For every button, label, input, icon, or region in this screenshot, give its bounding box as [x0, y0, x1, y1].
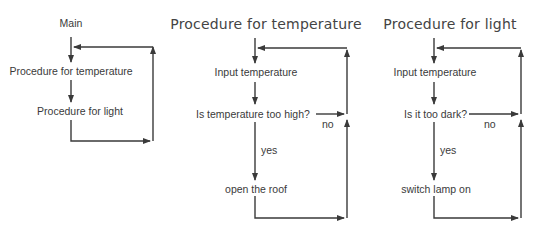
- light-action: switch lamp on: [401, 183, 470, 195]
- main-step-light: Procedure for light: [37, 105, 123, 117]
- temperature-action: open the roof: [225, 183, 287, 195]
- temperature-input: Input temperature: [215, 66, 298, 78]
- light-yes-label: yes: [440, 144, 456, 156]
- main-loop-bottom: [71, 120, 150, 141]
- main-title: Main: [60, 17, 83, 29]
- light-no-label: no: [484, 118, 496, 130]
- main-step-temperature: Procedure for temperature: [9, 65, 132, 77]
- light-title: Procedure for light: [383, 16, 516, 32]
- light-decision: Is it too dark?: [404, 108, 467, 120]
- temperature-decision: Is temperature too high?: [196, 108, 310, 120]
- temperature-no-label: no: [322, 118, 334, 130]
- light-input: Input temperature: [394, 66, 477, 78]
- flowchart-lines: [0, 0, 539, 241]
- temperature-title: Procedure for temperature: [170, 16, 362, 32]
- temperature-yes-label: yes: [261, 144, 277, 156]
